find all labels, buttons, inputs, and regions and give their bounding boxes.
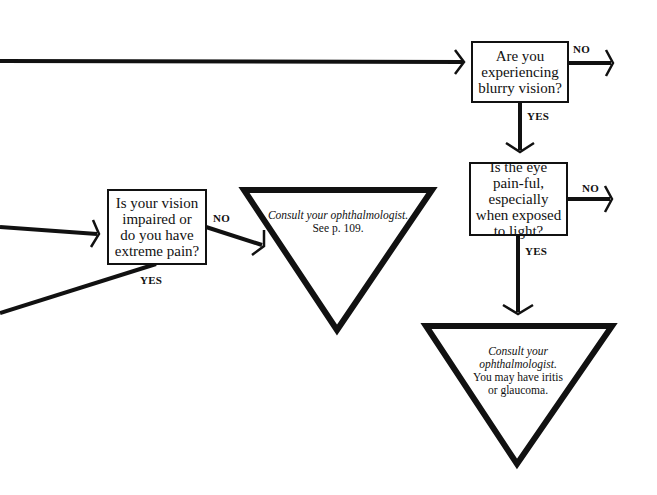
question-blurry-vision: Are you experiencing blurry vision? <box>471 41 569 103</box>
label-painful-yes: YES <box>525 245 547 257</box>
label-impaired-yes: YES <box>140 274 162 286</box>
arrow-into-impaired-question <box>0 220 99 247</box>
arrow-impaired-no <box>206 227 264 255</box>
outcome-see-p109-text: Consult your ophthalmologist. See p. 109… <box>266 209 410 235</box>
question-eye-painful-text: Is the eye pain-ful, especially when exp… <box>475 159 562 239</box>
outcome-iritis-detail: You may have iritis or glaucoma. <box>448 371 588 397</box>
label-blurry-yes: YES <box>527 110 549 122</box>
outcome-see-p109-heading: Consult your ophthalmologist. <box>266 209 410 222</box>
question-blurry-vision-text: Are you experiencing blurry vision? <box>477 48 563 96</box>
question-eye-painful: Is the eye pain-ful, especially when exp… <box>469 162 568 236</box>
line-impaired-yes <box>0 264 156 313</box>
question-vision-impaired: Is your vision impaired or do you have e… <box>107 189 207 265</box>
question-vision-impaired-text: Is your vision impaired or do you have e… <box>113 195 201 259</box>
outcome-iritis-heading: Consult your ophthalmologist. <box>448 345 588 371</box>
label-impaired-no: NO <box>213 212 230 224</box>
outcome-see-p109-detail: See p. 109. <box>312 222 363 234</box>
label-painful-no: NO <box>582 182 599 194</box>
arrow-into-blurry-question <box>0 50 464 74</box>
label-blurry-no: NO <box>573 43 590 55</box>
outcome-iritis-text: Consult your ophthalmologist. You may ha… <box>448 345 588 397</box>
